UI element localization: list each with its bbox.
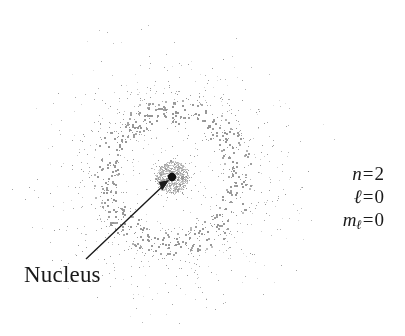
quantum-value-ml: 0 — [375, 209, 385, 230]
nucleus-pointer-line — [86, 183, 166, 259]
quantum-symbol-n: n — [352, 163, 362, 184]
quantum-numbers-block: n=2 ℓ=0 mℓ=0 — [300, 162, 384, 236]
quantum-number-row-n: n=2 — [300, 162, 384, 185]
equals-sign-ml: = — [362, 209, 375, 230]
nucleus-pointer-arrowhead — [159, 180, 169, 191]
quantum-symbol-l: ℓ — [354, 186, 362, 207]
quantum-value-l: 0 — [375, 186, 385, 207]
quantum-number-row-l: ℓ=0 — [300, 185, 384, 208]
nucleus-label: Nucleus — [24, 262, 101, 288]
quantum-number-row-ml: mℓ=0 — [300, 208, 384, 236]
quantum-subscript-l: ℓ — [356, 217, 361, 232]
equals-sign-l: = — [362, 186, 375, 207]
quantum-value-n: 2 — [375, 163, 385, 184]
equals-sign-n: = — [362, 163, 375, 184]
orbital-figure: Nucleus n=2 ℓ=0 mℓ=0 — [0, 0, 405, 336]
nucleus-dot — [168, 173, 176, 181]
quantum-symbol-m: m — [343, 209, 357, 230]
